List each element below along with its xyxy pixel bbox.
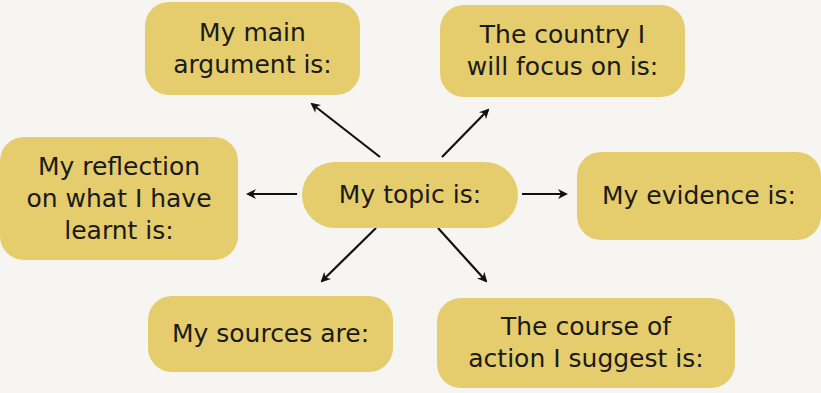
node-center-topic: My topic is: (302, 162, 518, 228)
arrow-to-main-argument (312, 104, 380, 157)
node-country: The country Iwill focus on is: (440, 5, 685, 97)
node-main-argument: My mainargument is: (145, 2, 360, 95)
node-text-line: on what I have (26, 183, 211, 215)
node-text-line: learnt is: (26, 215, 211, 247)
node-course-of-action: The course ofaction I suggest is: (437, 298, 735, 388)
center-text: My topic is: (339, 179, 481, 211)
node-evidence: My evidence is: (577, 152, 821, 240)
node-sources: My sources are: (148, 296, 393, 372)
node-text-line: The country I (467, 19, 658, 51)
arrow-to-sources (322, 228, 376, 281)
node-reflection: My reflectionon what I havelearnt is: (0, 137, 238, 260)
node-text-line: will focus on is: (467, 51, 658, 83)
arrow-to-country (442, 110, 488, 157)
node-text-line: action I suggest is: (468, 343, 703, 375)
node-text-line: My main (173, 17, 332, 49)
node-text-line: The course of (468, 311, 703, 343)
node-text-line: My reflection (26, 151, 211, 183)
node-text-line: My evidence is: (602, 180, 796, 212)
arrow-to-course-of-action (438, 228, 486, 281)
node-text-line: argument is: (173, 49, 332, 81)
node-text-line: My sources are: (172, 318, 369, 350)
